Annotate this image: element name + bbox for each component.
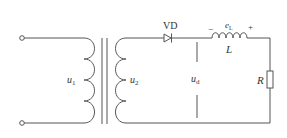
emf-minus-sign: −	[208, 24, 213, 34]
secondary-voltage-label: u2	[130, 74, 139, 87]
inductor-emf-label: eL	[225, 20, 233, 31]
output-voltage-label: ud	[191, 73, 200, 86]
diode-icon	[164, 34, 172, 43]
inductor-label: L	[225, 43, 232, 55]
emf-plus-sign: +	[248, 22, 253, 32]
resistor-icon	[267, 71, 273, 88]
circuit-diagram: u1 u2 VD eL − + L ud R	[0, 0, 287, 138]
inductor-coil	[212, 33, 247, 38]
secondary-winding	[116, 38, 127, 123]
input-terminal-bottom	[20, 121, 25, 126]
resistor-label: R	[256, 74, 264, 86]
primary-winding	[84, 38, 95, 123]
diode-label: VD	[163, 20, 177, 31]
circuit-svg: u1 u2 VD eL − + L ud R	[0, 0, 287, 138]
primary-voltage-label: u1	[67, 74, 76, 87]
input-terminal-top	[20, 36, 25, 41]
